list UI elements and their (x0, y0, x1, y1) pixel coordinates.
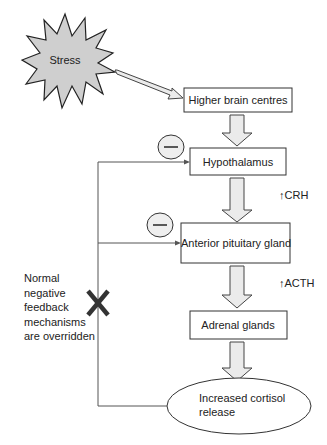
down-arrow-4 (222, 342, 252, 381)
adrenal-glands-label: Adrenal glands (201, 319, 275, 331)
stress-label: Stress (49, 54, 81, 66)
note-line-1: Normal (24, 271, 104, 286)
feedback-loop (98, 162, 186, 406)
hpa-axis-diagram: Stress Higher brain centres Hypothalamus… (0, 0, 327, 445)
note-line-3: feedback (24, 300, 104, 315)
down-arrow-1 (222, 115, 252, 146)
feedback-override-note: Normal negative feedback mechanisms are … (24, 271, 104, 344)
crh-label: ↑CRH (279, 189, 308, 201)
inhibition-circle-hypothalamus (158, 135, 184, 159)
acth-label: ↑ACTH (279, 277, 315, 289)
cortisol-label-line1: Increased cortisol (199, 392, 285, 404)
anterior-pituitary-label: Anterior pituitary gland (181, 237, 291, 249)
cortisol-label-line2: release (199, 406, 235, 418)
hypothalamus-label: Hypothalamus (203, 156, 274, 168)
note-line-2: negative (24, 286, 104, 301)
note-line-5: are overridden (24, 329, 104, 344)
note-line-4: mechanisms (24, 315, 104, 330)
down-arrow-2 (222, 178, 252, 222)
cortisol-ellipse (167, 378, 311, 434)
stress-starburst: Stress (22, 14, 115, 108)
higher-brain-centres-label: Higher brain centres (188, 94, 288, 106)
inhibition-circle-pituitary (147, 213, 173, 237)
stress-arrow (115, 70, 183, 99)
down-arrow-3 (222, 266, 252, 308)
feedback-arrowhead-hypothalamus (184, 160, 190, 165)
